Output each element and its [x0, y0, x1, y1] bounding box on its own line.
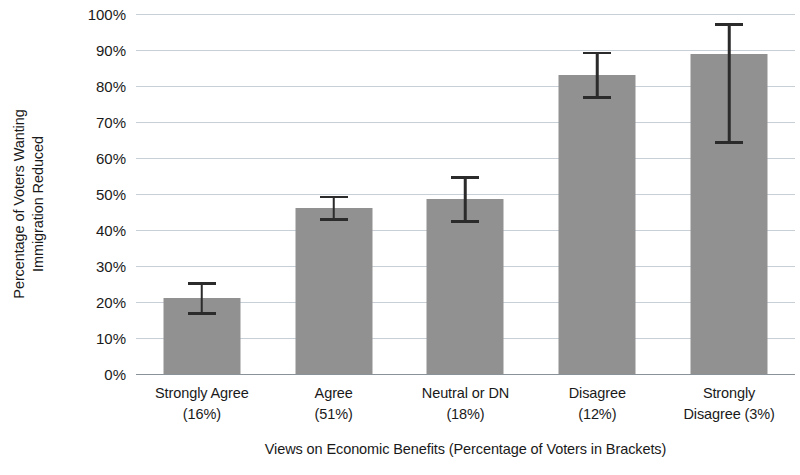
x-axis-tick-label: Disagree(12%) — [531, 383, 663, 425]
bar-group — [136, 14, 268, 374]
error-bar — [715, 23, 743, 144]
bar-group — [663, 14, 795, 374]
y-axis-tick-label: 70% — [42, 115, 126, 130]
x-axis-tick-label: StronglyDisagree (3%) — [663, 383, 795, 425]
x-axis-line — [136, 374, 795, 375]
bar-group — [531, 14, 663, 374]
x-axis-tick-label-line: (18%) — [400, 404, 532, 425]
x-axis-tick-label-line: (51%) — [268, 404, 400, 425]
y-axis-tick-label: 10% — [42, 331, 126, 346]
bar[interactable] — [559, 75, 636, 374]
x-axis-tick-label-line: Disagree — [531, 383, 663, 404]
error-bar — [583, 52, 611, 99]
error-bar — [451, 176, 479, 223]
x-axis-tick-label-line: Agree — [268, 383, 400, 404]
bar-group — [268, 14, 400, 374]
y-axis-tick-label: 20% — [42, 295, 126, 310]
error-bar-cap-top — [320, 196, 348, 199]
bar[interactable] — [427, 199, 504, 374]
y-axis-tick-label: 30% — [42, 259, 126, 274]
error-bar-cap-top — [451, 176, 479, 179]
error-bar-stem — [201, 282, 204, 314]
x-axis-tick-label: Agree(51%) — [268, 383, 400, 425]
error-bar-stem — [464, 176, 467, 223]
bar-chart-figure: Percentage of Voters Wanting Immigration… — [0, 0, 800, 475]
error-bar-cap-bot — [451, 220, 479, 223]
y-axis-tick-label: 80% — [42, 79, 126, 94]
y-axis-tick-labels: 100%90%80%70%60%50%40%30%20%10%0% — [42, 0, 126, 400]
error-bar-stem — [332, 196, 335, 221]
error-bar-cap-top — [188, 282, 216, 285]
x-axis-tick-labels: Strongly Agree(16%)Agree(51%)Neutral or … — [136, 383, 795, 431]
error-bar-cap-bot — [583, 96, 611, 99]
error-bar-stem — [596, 52, 599, 99]
y-axis-title-line-1: Percentage of Voters Wanting — [10, 24, 29, 384]
x-axis-title: Views on Economic Benefits (Percentage o… — [136, 440, 795, 458]
x-axis-tick-label-line: (12%) — [531, 404, 663, 425]
error-bar-cap-top — [715, 23, 743, 26]
y-axis-tick-label: 100% — [42, 7, 126, 22]
error-bar-stem — [728, 23, 731, 144]
y-axis-tick-label: 0% — [42, 367, 126, 382]
x-axis-tick-label-line: Strongly Agree — [136, 383, 268, 404]
error-bar — [320, 196, 348, 221]
x-axis-tick-label-line: Neutral or DN — [400, 383, 532, 404]
y-axis-tick-label: 60% — [42, 151, 126, 166]
error-bar-cap-top — [583, 52, 611, 55]
y-axis-tick-label: 90% — [42, 43, 126, 58]
bar[interactable] — [295, 208, 372, 374]
x-axis-tick-label: Neutral or DN(18%) — [400, 383, 532, 425]
error-bar-cap-bot — [715, 141, 743, 144]
y-axis-tick-label: 50% — [42, 187, 126, 202]
x-axis-tick-label: Strongly Agree(16%) — [136, 383, 268, 425]
error-bar-cap-bot — [320, 218, 348, 221]
x-axis-tick-label-line: Strongly — [663, 383, 795, 404]
x-axis-tick-label-line: Disagree (3%) — [663, 404, 795, 425]
y-axis-tick-label: 40% — [42, 223, 126, 238]
plot-area — [136, 14, 795, 374]
x-axis-tick-label-line: (16%) — [136, 404, 268, 425]
bar-group — [400, 14, 532, 374]
error-bar-cap-bot — [188, 312, 216, 315]
error-bar — [188, 282, 216, 314]
